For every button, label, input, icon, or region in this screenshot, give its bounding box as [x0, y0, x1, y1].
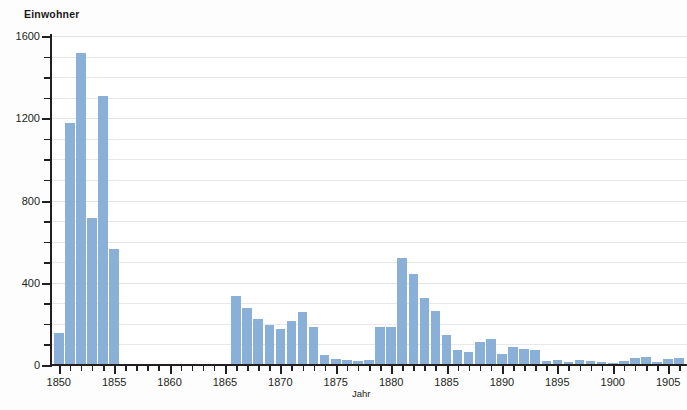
bar	[65, 123, 75, 365]
x-axis-tick	[502, 366, 504, 374]
x-axis-tick-minor	[413, 366, 415, 371]
bar	[375, 327, 385, 365]
bar	[253, 319, 263, 365]
bar	[420, 298, 430, 365]
x-axis-tick-minor	[513, 366, 515, 371]
x-axis-tick-minor	[136, 366, 138, 371]
y-axis-tick-minor	[44, 242, 51, 244]
bar	[530, 350, 540, 365]
x-axis-tick-minor	[380, 366, 382, 371]
x-axis-tick-minor	[192, 366, 194, 371]
x-axis-tick-label: 1855	[102, 376, 126, 388]
x-axis-tick	[336, 366, 338, 374]
bar	[287, 321, 297, 365]
bar	[242, 308, 252, 365]
bar	[453, 350, 463, 365]
x-axis-tick-label: 1875	[324, 376, 348, 388]
y-axis-tick-minor	[44, 57, 51, 59]
y-axis-tick-minor	[44, 98, 51, 100]
y-axis-tick-minor	[44, 139, 51, 141]
x-axis-tick	[668, 366, 670, 374]
x-axis-tick-label: 1880	[379, 376, 403, 388]
x-axis-tick-minor	[214, 366, 216, 371]
y-axis-tick	[42, 201, 51, 203]
x-axis-tick-minor	[358, 366, 360, 371]
x-axis-tick	[557, 366, 559, 374]
y-axis-tick-minor	[44, 159, 51, 161]
x-axis-tick-minor	[258, 366, 260, 371]
y-axis-tick-minor	[44, 262, 51, 264]
x-axis-tick-minor	[314, 366, 316, 371]
y-axis-tick-labels: 040080012001600	[0, 0, 40, 410]
x-axis-tick	[391, 366, 393, 374]
bar	[54, 333, 64, 365]
y-axis-tick	[42, 365, 51, 367]
x-axis-tick-minor	[624, 366, 626, 371]
bar	[98, 96, 108, 365]
x-axis-tick-minor	[646, 366, 648, 371]
x-axis-tick-minor	[347, 366, 349, 371]
y-axis-tick	[42, 283, 51, 285]
x-axis-tick-minor	[203, 366, 205, 371]
x-axis-tick-minor	[70, 366, 72, 371]
bar	[486, 339, 496, 365]
y-axis-tick-minor	[44, 344, 51, 346]
bar	[298, 312, 308, 365]
y-axis-tick-minor	[44, 303, 51, 305]
x-axis-tick-minor	[546, 366, 548, 371]
x-axis-tick	[447, 366, 449, 374]
y-axis-tick-minor	[44, 324, 51, 326]
y-axis-tick	[42, 36, 51, 38]
bar	[519, 349, 529, 365]
x-axis-tick	[280, 366, 282, 374]
x-axis-tick-minor	[657, 366, 659, 371]
x-axis-tick-minor	[103, 366, 105, 371]
x-axis-tick-minor	[435, 366, 437, 371]
bar	[508, 347, 518, 366]
x-axis-tick-label: 1870	[268, 376, 292, 388]
x-axis-tick-minor	[369, 366, 371, 371]
bar	[231, 296, 241, 365]
x-axis-tick-label: 1900	[601, 376, 625, 388]
x-axis-tick	[170, 366, 172, 374]
y-axis-tick	[42, 118, 51, 120]
x-axis-title: Jahr	[352, 388, 370, 399]
x-axis-tick-label: 1850	[47, 376, 71, 388]
x-axis-tick-minor	[469, 366, 471, 371]
x-axis-tick-minor	[480, 366, 482, 371]
x-axis-tick-minor	[181, 366, 183, 371]
x-axis-tick	[114, 366, 116, 374]
x-axis-tick-label: 1890	[490, 376, 514, 388]
y-axis-tick-label: 1600	[0, 30, 40, 42]
x-axis-tick-minor	[269, 366, 271, 371]
x-axis-tick-label: 1865	[213, 376, 237, 388]
bar	[409, 274, 419, 366]
x-axis-tick-minor	[424, 366, 426, 371]
bar	[431, 311, 441, 365]
x-axis-tick-minor	[524, 366, 526, 371]
x-axis-tick-minor	[158, 366, 160, 371]
x-axis-tick	[225, 366, 227, 374]
population-bar-chart-figure: Einwohner 040080012001600 18501855186018…	[0, 0, 687, 410]
x-axis-tick-minor	[291, 366, 293, 371]
bar	[386, 327, 396, 365]
bar	[397, 258, 407, 365]
x-axis-tick-minor	[491, 366, 493, 371]
bar	[109, 249, 119, 365]
x-axis-tick-minor	[325, 366, 327, 371]
bar	[442, 335, 452, 365]
y-axis-tick-label: 400	[0, 277, 40, 289]
x-axis-tick-minor	[92, 366, 94, 371]
x-axis-tick-minor	[679, 366, 681, 371]
x-axis-tick-label: 1895	[545, 376, 569, 388]
x-axis-tick-label: 1905	[656, 376, 680, 388]
x-axis-tick-minor	[125, 366, 127, 371]
bar	[475, 342, 485, 365]
x-axis-tick-minor	[147, 366, 149, 371]
y-axis-tick-label: 800	[0, 195, 40, 207]
x-axis-tick-minor	[303, 366, 305, 371]
bar	[276, 329, 286, 365]
y-axis-tick-minor	[44, 221, 51, 223]
y-axis-tick-minor	[44, 180, 51, 182]
y-axis-tick-label: 0	[0, 359, 40, 371]
